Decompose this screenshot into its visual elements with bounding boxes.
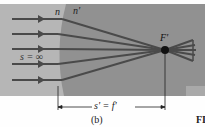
panel-label: (b) xyxy=(91,115,103,125)
figure-caption-prefix: FI xyxy=(196,115,205,125)
label-image-distance: s' = f' xyxy=(94,101,117,111)
label-focal-point: F' xyxy=(160,33,168,43)
label-n: n xyxy=(55,7,60,17)
focal-point-dot xyxy=(161,46,169,54)
label-n-prime: n' xyxy=(73,6,80,16)
refraction-diagram: n n' s = ∞ F' s' = f' (b) FI xyxy=(0,0,205,127)
label-object-distance: s = ∞ xyxy=(20,52,43,62)
